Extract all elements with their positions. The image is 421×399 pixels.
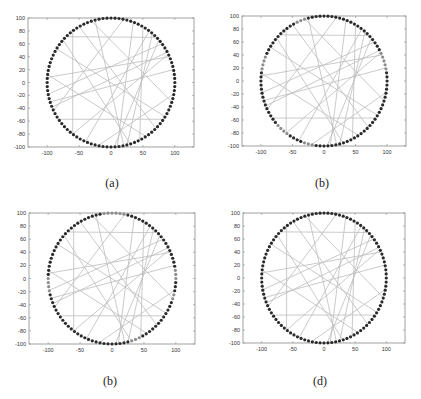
- sensor-node: [47, 277, 50, 280]
- sensor-node: [173, 89, 176, 92]
- sensor-node: [264, 103, 267, 106]
- sensor-node: [79, 137, 82, 140]
- sensor-node: [280, 324, 283, 327]
- sensor-node: [334, 143, 337, 146]
- sensor-node: [162, 315, 165, 318]
- sensor-node: [47, 285, 50, 288]
- x-tick-label: -50: [289, 346, 297, 352]
- sensor-node: [170, 61, 173, 64]
- sensor-node: [282, 129, 285, 132]
- sensor-node: [105, 17, 108, 20]
- y-tick-label: 40: [19, 54, 25, 60]
- sensor-node: [263, 296, 266, 299]
- sensor-node: [160, 319, 163, 322]
- sensor-node: [338, 16, 341, 19]
- sensor-node: [260, 276, 263, 279]
- sensor-node: [110, 211, 113, 214]
- sensor-node: [292, 22, 295, 25]
- sensor-node: [307, 142, 310, 145]
- x-tick-label: 50: [140, 150, 146, 156]
- sensor-node: [318, 144, 321, 147]
- sensor-node: [261, 96, 264, 99]
- sensor-node: [48, 265, 51, 268]
- sensor-node: [380, 300, 383, 303]
- sensor-node: [274, 318, 277, 321]
- sensor-node: [134, 338, 137, 341]
- sensor-node: [114, 342, 117, 345]
- sensor-node: [346, 19, 349, 22]
- link-line: [280, 232, 368, 233]
- sensor-node: [101, 145, 104, 148]
- sensor-node: [46, 81, 49, 84]
- y-tick-label: 40: [234, 249, 240, 255]
- sensor-node: [260, 280, 263, 283]
- sensor-node: [67, 325, 70, 328]
- sensor-node: [303, 338, 306, 341]
- sensor-node: [279, 127, 282, 130]
- sensor-node: [265, 52, 268, 55]
- subplot-a: -100-50050100-100-80-60-40-2002040608010…: [28, 18, 194, 147]
- sensor-node: [283, 226, 286, 229]
- sensor-node: [276, 124, 279, 127]
- sensor-node: [330, 212, 333, 215]
- sensor-node: [140, 24, 143, 27]
- sensor-node: [299, 337, 302, 340]
- sensor-node: [73, 224, 76, 227]
- link-line: [67, 232, 158, 233]
- sensor-node: [53, 249, 56, 252]
- y-tick-label: -100: [229, 340, 240, 346]
- sensor-node: [91, 339, 94, 342]
- sensor-node: [95, 340, 98, 343]
- sensor-node: [126, 340, 129, 343]
- sensor-node: [373, 118, 376, 121]
- x-tick-label: 0: [109, 150, 112, 156]
- sensor-node: [311, 340, 314, 343]
- sensor-node: [363, 129, 366, 132]
- sensor-node: [377, 308, 380, 311]
- sensor-node: [311, 143, 314, 146]
- subplot-b-bottom-canvas: -100-50050100-100-80-60-40-2002040608010…: [29, 213, 195, 344]
- sensor-node: [105, 145, 108, 148]
- sensor-node: [356, 331, 359, 334]
- sensor-node: [165, 50, 168, 53]
- y-tick-label: -20: [232, 288, 240, 294]
- sensor-node: [86, 21, 89, 24]
- sensor-node: [56, 312, 59, 315]
- y-tick-label: -60: [232, 314, 240, 320]
- x-tick-label: 50: [352, 346, 358, 352]
- y-tick-label: -100: [15, 341, 26, 347]
- sensor-node: [148, 224, 151, 227]
- sensor-node: [322, 341, 325, 344]
- sensor-node: [79, 24, 82, 27]
- sensor-node: [156, 125, 159, 128]
- sensor-node: [172, 293, 175, 296]
- sensor-node: [118, 212, 121, 215]
- sensor-node: [262, 293, 265, 296]
- sensor-node: [47, 273, 50, 276]
- sensor-node: [170, 101, 173, 104]
- sensor-node: [338, 339, 341, 342]
- sensor-node: [289, 134, 292, 137]
- sensor-node: [345, 216, 348, 219]
- y-tick-label: -40: [17, 105, 25, 111]
- sensor-node: [314, 15, 317, 18]
- sensor-node: [349, 335, 352, 338]
- sensor-node: [259, 75, 262, 78]
- sensor-node: [51, 253, 54, 256]
- sensor-node: [274, 121, 277, 124]
- sensor-node: [363, 29, 366, 32]
- link-line: [48, 44, 162, 94]
- sensor-node: [265, 107, 268, 110]
- sensor-node: [169, 57, 172, 60]
- sensor-node: [296, 335, 299, 338]
- sensor-node: [144, 135, 147, 138]
- y-tick-label: 60: [20, 236, 26, 242]
- sensor-node: [262, 59, 265, 62]
- x-tick-label: -100: [255, 149, 266, 155]
- sensor-node: [368, 232, 371, 235]
- sensor-node: [150, 31, 153, 34]
- y-tick-label: 100: [17, 210, 26, 216]
- sensor-node: [174, 281, 177, 284]
- sensor-node: [164, 312, 167, 315]
- sensor-node: [262, 260, 265, 263]
